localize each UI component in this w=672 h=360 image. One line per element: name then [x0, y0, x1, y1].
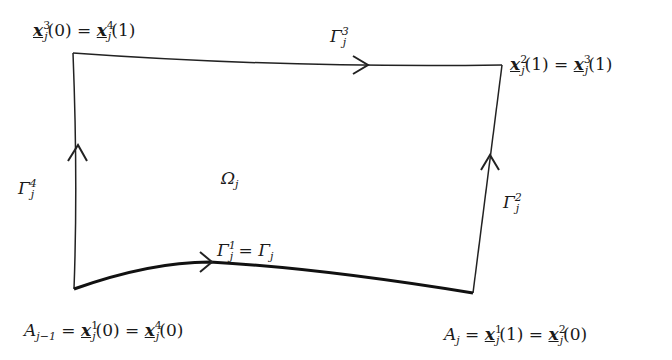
edge-label-gamma1: Γ1j = Γj: [217, 240, 274, 262]
corner-label-bottom-left: Aj−1 = x1j(0) = x4j(0): [24, 320, 183, 342]
edge-gamma4: [73, 53, 76, 289]
edge-gamma2: [473, 65, 502, 293]
corner-label-top-right: x2j(1) = x3j(1): [510, 54, 612, 76]
edge-gamma3: [73, 53, 502, 66]
corner-label-bottom-right: Aj = x1j(1) = x2j(0): [444, 324, 587, 346]
edge-label-gamma3: Γ3j: [330, 26, 346, 48]
region-label-omega: Ωj: [221, 170, 239, 190]
corner-label-top-left: x3j(0) = x4j(1): [33, 20, 135, 42]
edge-gamma1: [74, 262, 473, 293]
edge-label-gamma4: Γ4j: [18, 178, 34, 200]
arrow-up-icon: [68, 145, 87, 161]
edge-label-gamma2: Γ2j: [503, 192, 519, 214]
